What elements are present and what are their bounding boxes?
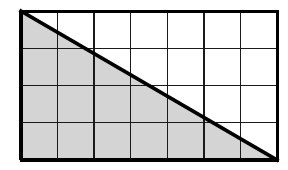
grid-triangle-figure bbox=[0, 0, 288, 170]
figure-container bbox=[0, 0, 288, 170]
